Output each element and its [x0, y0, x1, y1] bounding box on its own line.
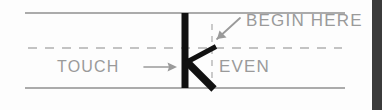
label-touch: TOUCH — [57, 58, 120, 76]
arrow-down-left-icon — [217, 18, 240, 39]
label-begin-here: BEGIN HERE — [246, 11, 363, 31]
page-edge-strip — [372, 0, 382, 110]
letterform-diagram: BEGIN HERE EVEN TOUCH — [0, 0, 382, 110]
label-even: EVEN — [219, 57, 270, 77]
arrow-right-icon — [144, 63, 177, 72]
letter-k-lower-arm — [186, 61, 214, 89]
